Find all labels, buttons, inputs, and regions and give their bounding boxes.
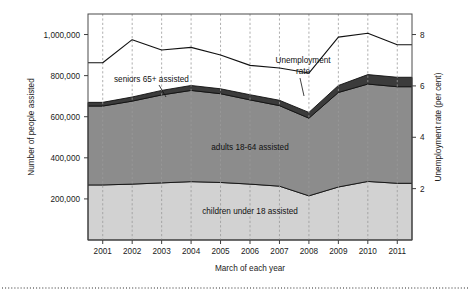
left-axis-ticks: 200,000400,000600,000800,0001,000,000 [44,31,88,204]
x-tick-label-2007: 2007 [270,247,289,256]
seniors-65-label: seniors 65+ assisted [114,75,189,84]
y2-axis-title: Unemployment rate (per cent) [434,72,443,181]
children-band-label: children under 18 assisted [202,207,298,216]
x-tick-label-2005: 2005 [211,247,230,256]
x-tick-label-2002: 2002 [123,247,142,256]
y-tick-label-800000: 800,000 [50,72,80,81]
chart-svg: 200,000400,000600,000800,0001,000,000 24… [0,0,471,302]
y-tick-label-600000: 600,000 [50,113,80,122]
y2-tick-label-6: 6 [420,82,425,91]
x-tick-label-2001: 2001 [94,247,113,256]
x-tick-label-2003: 2003 [153,247,172,256]
y2-tick-label-2: 2 [420,185,425,194]
x-tick-label-2010: 2010 [359,247,378,256]
x-tick-label-2008: 2008 [300,247,319,256]
area-band-1 [88,84,412,196]
right-axis-ticks: 2468 [412,31,425,194]
y-tick-label-200000: 200,000 [50,195,80,204]
y2-tick-label-8: 8 [420,31,425,40]
x-tick-label-2011: 2011 [388,247,406,256]
y-tick-label-1000000: 1,000,000 [44,31,81,40]
x-tick-label-2004: 2004 [182,247,201,256]
y-tick-label-400000: 400,000 [50,154,80,163]
x-axis-title: March of each year [215,264,285,273]
unemployment-rate-label-line2: rate [296,67,311,76]
x-tick-label-2006: 2006 [241,247,260,256]
y-axis-title: Number of people assisted [27,78,36,176]
x-tick-label-2009: 2009 [329,247,348,256]
y2-tick-label-4: 4 [420,133,425,142]
x-axis-ticks: 2001200220032004200520062007200820092010… [94,240,407,256]
adults-band-label: adults 18-64 assisted [211,143,289,152]
chart-figure: 200,000400,000600,000800,0001,000,000 24… [0,0,471,302]
unemployment-rate-label-line1: Unemployment [275,56,331,65]
